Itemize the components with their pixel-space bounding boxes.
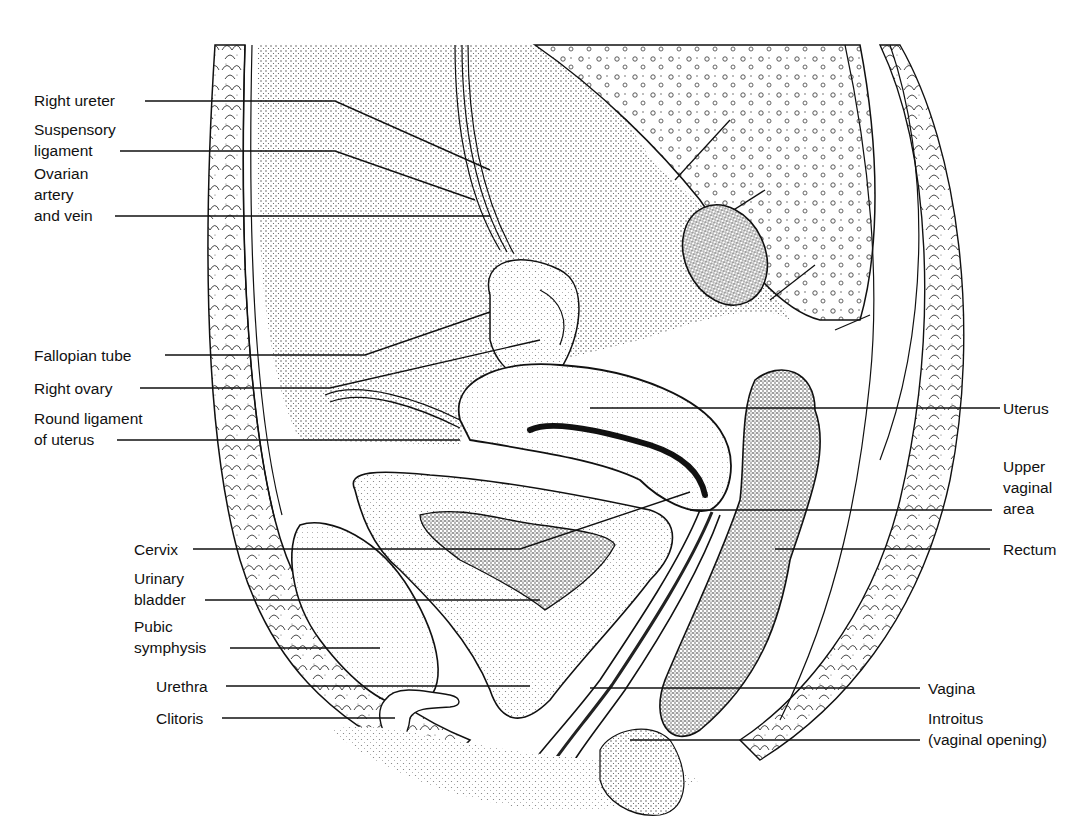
label-text: Vagina — [928, 678, 975, 699]
label-text: Urinary — [134, 568, 186, 589]
label-text: Cervix — [134, 539, 178, 560]
label-text: Introitus — [928, 708, 1047, 729]
label-text: artery — [34, 184, 93, 205]
label-right-ureter: Right ureter — [34, 90, 115, 111]
label-text: Fallopian tube — [34, 345, 131, 366]
label-text: Suspensory — [34, 119, 116, 140]
label-clitoris: Clitoris — [156, 708, 203, 729]
label-text: Rectum — [1003, 539, 1056, 560]
label-text: Round ligament — [34, 408, 143, 429]
label-text: (vaginal opening) — [928, 729, 1047, 750]
label-vagina: Vagina — [928, 678, 975, 699]
label-urethra: Urethra — [156, 676, 208, 697]
label-right-ovary: Right ovary — [34, 378, 112, 399]
label-rectum: Rectum — [1003, 539, 1056, 560]
anatomy-figure: Right ureter Suspensory ligament Ovarian… — [0, 0, 1092, 839]
label-text: Ovarian — [34, 163, 93, 184]
label-text: ligament — [34, 140, 116, 161]
label-text: Urethra — [156, 676, 208, 697]
label-text: Right ovary — [34, 378, 112, 399]
label-cervix: Cervix — [134, 539, 178, 560]
label-urinary-bladder: Urinary bladder — [134, 568, 186, 610]
label-fallopian-tube: Fallopian tube — [34, 345, 131, 366]
label-text: bladder — [134, 589, 186, 610]
label-text: area — [1003, 498, 1052, 519]
label-introitus: Introitus (vaginal opening) — [928, 708, 1047, 750]
label-round-ligament: Round ligament of uterus — [34, 408, 143, 450]
label-text: Clitoris — [156, 708, 203, 729]
label-text: Upper — [1003, 456, 1052, 477]
label-text: Right ureter — [34, 90, 115, 111]
label-text: and vein — [34, 205, 93, 226]
label-text: symphysis — [134, 637, 206, 658]
label-upper-vaginal-area: Upper vaginal area — [1003, 456, 1052, 519]
label-uterus: Uterus — [1003, 398, 1049, 419]
label-text: Uterus — [1003, 398, 1049, 419]
label-text: Pubic — [134, 616, 206, 637]
label-text: vaginal — [1003, 477, 1052, 498]
label-ovarian-artery-vein: Ovarian artery and vein — [34, 163, 93, 226]
label-pubic-symphysis: Pubic symphysis — [134, 616, 206, 658]
label-suspensory-ligament: Suspensory ligament — [34, 119, 116, 161]
label-text: of uterus — [34, 429, 143, 450]
